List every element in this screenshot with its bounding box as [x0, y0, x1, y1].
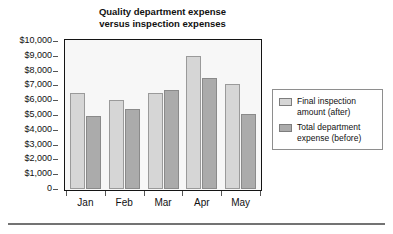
bar[interactable]: [186, 56, 201, 189]
bar-group: [186, 41, 217, 189]
bar[interactable]: [148, 93, 163, 189]
chart-legend: Final inspectionamount (after)Total depa…: [272, 89, 383, 150]
y-tick-mark: [53, 159, 58, 160]
y-tick-label: $10,000: [19, 35, 52, 46]
bar[interactable]: [241, 114, 256, 189]
y-tick-label: $7,000: [24, 79, 52, 90]
x-axis-label-apr: Apr: [182, 196, 221, 209]
bar[interactable]: [202, 78, 217, 189]
y-tick-mark: [53, 189, 58, 190]
legend-label-line: amount (after): [297, 107, 356, 118]
y-tick-label: $5,000: [24, 109, 52, 120]
bar[interactable]: [125, 109, 140, 189]
bars-container: [66, 41, 260, 189]
y-tick-label: $4,000: [24, 124, 52, 135]
y-tick-mark: [53, 71, 58, 72]
legend-swatch-icon: [279, 98, 292, 106]
chart-title-line-1: Quality department expense: [60, 6, 265, 18]
x-axis-label-feb: Feb: [105, 196, 144, 209]
legend-label: Total departmentexpense (before): [297, 122, 361, 143]
bar[interactable]: [164, 90, 179, 189]
bar-group: [109, 41, 140, 189]
y-axis: $10,000$9,000$8,000$7,000$6,000$5,000$4,…: [0, 39, 58, 191]
legend-label-line: expense (before): [297, 133, 361, 144]
legend-item[interactable]: Total departmentexpense (before): [279, 122, 377, 143]
bar[interactable]: [70, 93, 85, 189]
y-tick-mark: [53, 56, 58, 57]
y-tick-label: $6,000: [24, 94, 52, 105]
chart-title: Quality department expense versus inspec…: [60, 6, 265, 29]
y-tick-label: $1,000: [24, 168, 52, 179]
y-tick-mark: [53, 115, 58, 116]
bar-group: [148, 41, 179, 189]
y-tick-mark: [53, 130, 58, 131]
y-tick-label: $3,000: [24, 139, 52, 150]
y-tick-mark: [53, 85, 58, 86]
y-tick-mark: [53, 145, 58, 146]
x-axis-label-may: May: [221, 196, 260, 209]
y-tick-label: $2,000: [24, 153, 52, 164]
x-axis-labels: JanFebMarAprMay: [64, 196, 262, 212]
bar[interactable]: [225, 84, 240, 189]
x-axis-label-jan: Jan: [66, 196, 105, 209]
legend-label-line: Total department: [297, 122, 361, 133]
x-axis-label-mar: Mar: [144, 196, 183, 209]
footer-divider: [8, 223, 385, 225]
bar[interactable]: [109, 100, 124, 189]
legend-item[interactable]: Final inspectionamount (after): [279, 96, 377, 117]
y-tick-label: 0: [47, 183, 52, 194]
bar-group: [70, 41, 101, 189]
y-tick-label: $8,000: [24, 65, 52, 76]
legend-swatch-icon: [279, 124, 292, 132]
y-tick-mark: [53, 174, 58, 175]
legend-label: Final inspectionamount (after): [297, 96, 356, 117]
chart-title-line-2: versus inspection expenses: [60, 18, 265, 30]
y-tick-label: $9,000: [24, 50, 52, 61]
bar[interactable]: [86, 116, 101, 189]
legend-label-line: Final inspection: [297, 96, 356, 107]
bar-group: [225, 41, 256, 189]
y-tick-mark: [53, 100, 58, 101]
y-tick-mark: [53, 41, 58, 42]
